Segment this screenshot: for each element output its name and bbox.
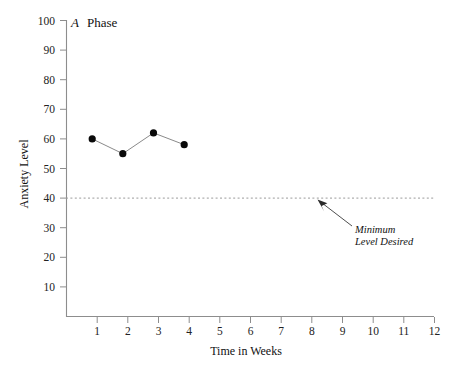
- y-tick-label-90: 90: [44, 44, 56, 56]
- y-tick-label-20: 20: [44, 251, 56, 263]
- phase-title-word: Phase: [87, 15, 118, 30]
- y-tick-label-80: 80: [44, 74, 56, 86]
- data-point-week-1: [89, 135, 96, 142]
- axes-group: [66, 20, 434, 317]
- data-series-group: [89, 129, 188, 157]
- x-tick-label-10: 10: [367, 325, 379, 337]
- data-point-week-2: [119, 150, 126, 157]
- y-tick-label-100: 100: [38, 15, 56, 27]
- x-tick-label-11: 11: [398, 325, 409, 337]
- annotation-label-line2: Level Desired: [354, 236, 414, 247]
- y-tick-label-60: 60: [44, 133, 56, 145]
- x-tick-label-1: 1: [94, 325, 100, 337]
- x-axis-title: Time in Weeks: [210, 344, 282, 358]
- data-point-week-3: [150, 129, 157, 136]
- x-tick-label-7: 7: [278, 325, 284, 337]
- y-tick-label-30: 30: [44, 222, 56, 234]
- x-tick-label-3: 3: [156, 325, 162, 337]
- phase-title-text: A Phase: [70, 13, 118, 30]
- minimum-level-annotation: Minimum Level Desired: [318, 200, 414, 248]
- x-tick-label-5: 5: [217, 325, 223, 337]
- x-axis-ticks: 1 2 3 4 5 6 7 8 9 10 11 12: [94, 317, 440, 337]
- y-axis-ticks: 100 90 80 70 60 50 40 30 20 10: [38, 15, 66, 293]
- y-tick-label-10: 10: [44, 281, 56, 293]
- y-tick-label-40: 40: [44, 192, 56, 204]
- x-tick-label-4: 4: [186, 325, 192, 337]
- phase-title-letter: A: [70, 15, 79, 30]
- x-tick-label-9: 9: [340, 325, 346, 337]
- x-tick-label-12: 12: [429, 325, 441, 337]
- phase-title: A Phase: [70, 13, 118, 30]
- annotation-label-line1: Minimum: [354, 224, 396, 235]
- x-tick-label-2: 2: [125, 325, 131, 337]
- y-tick-label-70: 70: [44, 103, 56, 115]
- x-tick-label-6: 6: [248, 325, 254, 337]
- x-tick-label-8: 8: [309, 325, 315, 337]
- anxiety-level-line-chart: 100 90 80 70 60 50 40 30 20 10 1: [0, 0, 461, 365]
- annotation-arrow-line: [322, 203, 352, 226]
- y-axis-title: Anxiety Level: [17, 139, 31, 209]
- data-point-week-4: [181, 141, 188, 148]
- y-tick-label-50: 50: [44, 163, 56, 175]
- series-line-anxiety: [92, 133, 184, 154]
- chart-canvas: 100 90 80 70 60 50 40 30 20 10 1: [0, 0, 461, 365]
